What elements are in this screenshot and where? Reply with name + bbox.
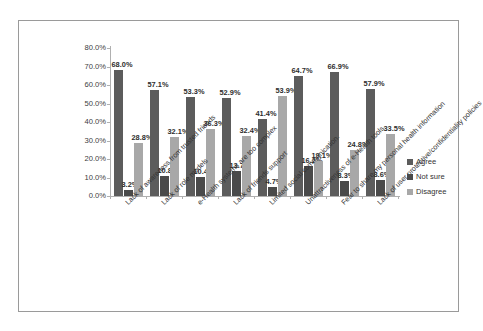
legend-label: Not sure [416, 172, 445, 181]
bar-value-label: 57.1% [148, 81, 169, 89]
x-axis-tick-mark [326, 196, 327, 199]
y-axis-tick-label: 60.0% [60, 81, 106, 89]
x-axis-category-labels: Lack of awareness from trusted friendsLa… [19, 199, 460, 311]
legend-item-agree[interactable]: Agree [407, 154, 459, 169]
x-axis-tick-mark [362, 196, 363, 199]
y-axis-tick-mark [107, 67, 110, 68]
bar-value-label: 68.0% [112, 61, 133, 69]
x-axis-line [110, 196, 400, 197]
bar-value-label: 64.7% [292, 67, 313, 75]
bar-value-label: 53.3% [184, 88, 205, 96]
y-axis-tick-label: 50.0% [60, 100, 106, 108]
y-axis-tick-mark [107, 122, 110, 123]
bar-group: 68.0%3.2%28.8% [113, 48, 144, 196]
bar-value-label: 57.9% [364, 80, 385, 88]
bar-value-label: 66.9% [328, 63, 349, 71]
bar-value-label: 41.4% [256, 110, 277, 118]
y-axis-tick-mark [107, 48, 110, 49]
legend-swatch-icon [407, 189, 413, 195]
legend-label: Disagree [416, 187, 446, 196]
x-axis-tick-mark [254, 196, 255, 199]
x-axis-tick-mark [146, 196, 147, 199]
legend-swatch-icon [407, 174, 413, 180]
chart-legend: AgreeNot sureDisagree [407, 154, 459, 199]
y-axis-tick-label: 30.0% [60, 137, 106, 145]
legend-item-not-sure[interactable]: Not sure [407, 169, 459, 184]
x-axis-tick-mark [182, 196, 183, 199]
y-axis-tick-mark [107, 104, 110, 105]
y-axis-tick-label: 70.0% [60, 63, 106, 71]
legend-item-disagree[interactable]: Disagree [407, 184, 459, 199]
y-axis-tick-mark [107, 141, 110, 142]
y-axis-tick-label: 10.0% [60, 174, 106, 182]
x-axis-tick-mark [110, 196, 111, 199]
x-axis-tick-mark [218, 196, 219, 199]
bar-agree[interactable] [114, 70, 123, 196]
y-axis-tick-label: 40.0% [60, 118, 106, 126]
bar-value-label: 52.9% [220, 89, 241, 97]
y-axis-tick-mark [107, 85, 110, 86]
legend-label: Agree [416, 157, 436, 166]
x-axis-tick-mark [398, 196, 399, 199]
legend-swatch-icon [407, 159, 413, 165]
chart-frame: 80.0%70.0%60.0%50.0%40.0%30.0%20.0%10.0%… [18, 20, 459, 312]
y-axis-tick-label: 20.0% [60, 155, 106, 163]
y-axis-tick-mark [107, 178, 110, 179]
y-axis-tick-label: 80.0% [60, 44, 106, 52]
bar-value-label: 33.5% [384, 125, 405, 133]
y-axis-tick-mark [107, 159, 110, 160]
x-axis-tick-mark [290, 196, 291, 199]
